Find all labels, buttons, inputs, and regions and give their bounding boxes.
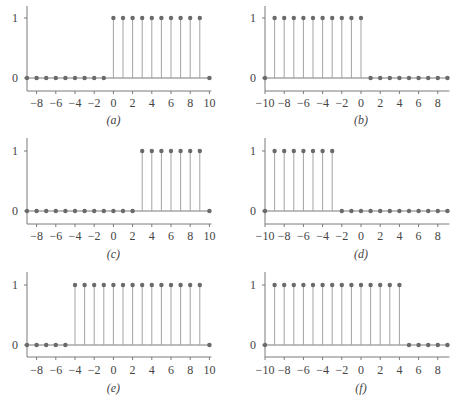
stem-marker [359,16,363,20]
stem-marker [159,149,163,153]
x-tick-label: −2 [88,363,101,377]
x-tick-label: 10 [203,229,215,243]
x-tick-label: −2 [335,96,348,110]
stem-marker [359,209,363,213]
stem-marker [407,76,411,80]
stem-marker [54,209,58,213]
x-tick-label: −4 [69,363,82,377]
stem-marker [311,16,315,20]
stem-marker [140,283,144,287]
panel-caption: (b) [354,113,368,127]
stem-marker [330,149,334,153]
stem-marker [340,209,344,213]
x-tick-label: 6 [168,363,174,377]
x-tick-label: −6 [297,229,310,243]
y-tick-label: 1 [12,144,18,158]
figure-canvas: (a) 01−8−6−4−20246810 (b) 01−10−8−6−4−20… [0,0,458,401]
x-tick-label: −6 [49,96,62,110]
x-tick-label: 6 [168,96,174,110]
stem-marker [378,283,382,287]
stem-marker [263,343,267,347]
stem-marker [198,283,202,287]
x-tick-label: 0 [358,229,364,243]
y-tick-label: 0 [250,338,256,352]
stem-marker [445,76,449,80]
stem-marker [320,283,324,287]
stem-marker [121,209,125,213]
stem-marker [292,16,296,20]
x-tick-label: 4 [396,96,402,110]
stem-marker [188,149,192,153]
x-tick-label: −8 [278,96,291,110]
stem-marker [73,283,77,287]
stem-marker [330,283,334,287]
x-tick-label: −10 [256,96,275,110]
x-tick-label: 2 [377,229,383,243]
y-tick-label: 0 [12,71,18,85]
x-tick-label: 2 [130,96,136,110]
stem-marker [301,16,305,20]
stem-marker [178,149,182,153]
stem-marker [272,149,276,153]
panel-caption: (f) [355,381,366,395]
stem-marker [368,209,372,213]
stem-marker [111,209,115,213]
stem-marker [416,76,420,80]
stem-marker [102,209,106,213]
x-tick-label: 0 [110,229,116,243]
x-tick-label: −4 [316,363,329,377]
stem-marker [150,16,154,20]
stem-marker [436,209,440,213]
stem-marker [111,283,115,287]
stem-marker [169,283,173,287]
stem-marker [368,283,372,287]
x-tick-label: −6 [49,229,62,243]
stem-marker [92,76,96,80]
x-tick-label: 8 [187,363,193,377]
x-tick-label: −6 [297,363,310,377]
stem-marker [292,283,296,287]
stem-marker [445,209,449,213]
x-tick-label: 4 [149,229,155,243]
stem-marker [169,16,173,20]
x-tick-label: −6 [297,96,310,110]
stem-marker [263,209,267,213]
x-tick-label: 2 [130,363,136,377]
x-tick-label: 8 [435,363,441,377]
stem-marker [102,283,106,287]
stem-marker [378,209,382,213]
panel-e: (e) 01−8−6−4−20246810 [12,272,215,395]
stem-marker [207,209,211,213]
stem-marker [150,149,154,153]
x-tick-label: −8 [30,229,43,243]
stem-marker [320,149,324,153]
panel-a: (a) 01−8−6−4−20246810 [12,6,215,127]
stem-marker [44,76,48,80]
x-tick-label: 0 [358,363,364,377]
panel-caption: (d) [354,247,368,261]
y-tick-label: 1 [12,278,18,292]
panel-caption: (a) [106,113,120,127]
stem-marker [416,343,420,347]
stem-marker [188,16,192,20]
panel-caption: (e) [107,381,120,395]
x-tick-label: −4 [69,229,82,243]
stem-marker [263,76,267,80]
x-tick-label: 0 [358,96,364,110]
stem-marker [130,209,134,213]
stem-marker [207,343,211,347]
stem-marker [82,209,86,213]
x-tick-label: 6 [416,96,422,110]
stem-marker [44,209,48,213]
stem-marker [178,283,182,287]
stem-marker [82,76,86,80]
stem-marker [121,16,125,20]
x-tick-label: −8 [278,363,291,377]
stem-marker [207,76,211,80]
stem-marker [340,16,344,20]
stem-marker [198,149,202,153]
x-tick-label: 4 [149,96,155,110]
stem-marker [426,343,430,347]
panel-caption: (c) [107,247,120,261]
x-tick-label: 4 [396,363,402,377]
